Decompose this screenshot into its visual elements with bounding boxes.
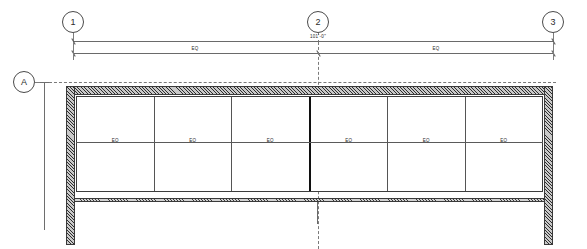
grid-bubble-1[interactable]: 1 — [62, 11, 84, 33]
grid-a-datum-line — [44, 82, 45, 230]
segment-dimension-label-left: EQ — [189, 47, 200, 52]
exterior-wall-top — [66, 86, 553, 95]
exterior-wall-left — [66, 86, 75, 245]
grid-bubble-a[interactable]: A — [13, 71, 35, 93]
storefront-panel[interactable]: EQ — [466, 97, 543, 191]
grid-line-a — [44, 82, 556, 83]
overall-dimension-label: 101'-0" — [308, 35, 328, 40]
segment-dimension-label-right: EQ — [430, 47, 441, 52]
grid-bubble-2[interactable]: 2 — [307, 11, 329, 33]
storefront-glazing-assembly: EQ EQ EQ EQ EQ EQ — [76, 96, 543, 192]
storefront-panel[interactable]: EQ — [388, 97, 466, 191]
building-shell: EQ EQ EQ EQ EQ EQ — [66, 86, 553, 202]
grid-bubble-3-label: 3 — [550, 18, 555, 27]
storefront-panel[interactable]: EQ — [311, 97, 389, 191]
grid-bubble-a-label: A — [21, 78, 27, 87]
storefront-panel[interactable]: EQ — [77, 97, 155, 191]
overall-dimension-line — [73, 41, 553, 42]
storefront-panel[interactable]: EQ — [155, 97, 233, 191]
architectural-drawing-canvas: 1 2 3 A 101'-0" EQ EQ EQ — [0, 0, 587, 249]
grid-bubble-2-label: 2 — [315, 18, 320, 27]
centerline-stub — [317, 202, 318, 224]
grid-a-tick — [40, 82, 49, 83]
extension-line-grid-1 — [73, 42, 74, 60]
horizontal-mullion — [76, 142, 543, 143]
exterior-wall-right — [544, 86, 553, 245]
grid-bubble-1-label: 1 — [70, 18, 75, 27]
segment-dimension-line — [73, 53, 553, 54]
floor-slab-line — [75, 198, 544, 202]
grid-bubble-3[interactable]: 3 — [542, 11, 564, 33]
extension-line-grid-3 — [553, 42, 554, 60]
storefront-panel[interactable]: EQ — [232, 97, 311, 191]
